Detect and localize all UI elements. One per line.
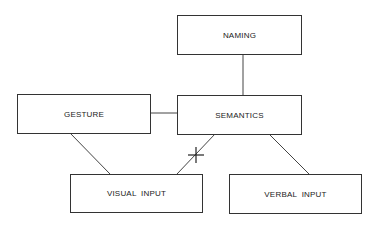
node-verbal-input: VERBAL INPUT [229,174,362,214]
node-label: VISUAL INPUT [107,189,166,198]
node-gesture: GESTURE [17,94,151,134]
node-semantics: SEMANTICS [177,95,302,135]
node-visual-input: VISUAL INPUT [70,174,203,213]
node-label: NAMING [223,31,256,40]
edge-semantics-verbal [269,134,309,174]
node-label: VERBAL INPUT [264,190,326,199]
node-label: GESTURE [64,110,104,119]
node-label: SEMANTICS [215,111,263,120]
node-naming: NAMING [177,15,302,55]
edge-gesture-visual [70,133,110,174]
